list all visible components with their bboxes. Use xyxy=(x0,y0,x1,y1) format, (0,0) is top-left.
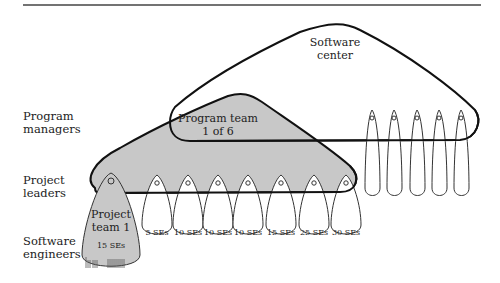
software-center-label-2: center xyxy=(317,49,354,62)
team-size-label: 10 SEs xyxy=(174,228,202,237)
software-center-label: Software xyxy=(310,36,360,49)
project-team-1-label-2: team 1 xyxy=(92,221,130,234)
project-team-1-label: Project xyxy=(91,208,131,221)
row-label-project-leaders: Project leaders xyxy=(23,174,66,200)
row-label-line: managers xyxy=(23,123,81,136)
row-label-program-managers: Program managers xyxy=(23,110,81,136)
row-label-line: engineers xyxy=(23,248,81,261)
team-size-label: 10 SEs xyxy=(204,228,232,237)
program-team-label-2: 1 of 6 xyxy=(202,125,234,138)
other-program-teams xyxy=(365,110,469,196)
row-label-software-engineers: Software engineers xyxy=(23,235,81,261)
team-size-label: 5 SEs xyxy=(145,228,168,237)
team-size-label: 10 SEs xyxy=(234,228,262,237)
project-team-1-size: 15 SEs xyxy=(97,241,125,250)
program-team-label: Program team xyxy=(178,112,259,125)
row-label-line: leaders xyxy=(23,187,66,200)
team-size-label: 15 SEs xyxy=(267,228,295,237)
team-size-label: 25 SEs xyxy=(300,228,328,237)
team-size-label: 30 SEs xyxy=(332,228,360,237)
